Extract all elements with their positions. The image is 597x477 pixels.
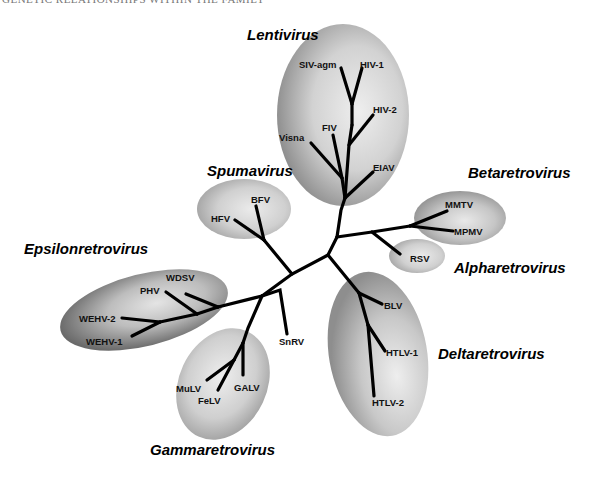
- genus-spumavirus: Spumavirus: [207, 162, 293, 179]
- spumavirus-ellipse: [197, 179, 291, 239]
- leaf-felv: FeLV: [198, 395, 221, 406]
- leaf-siv-agm: SIV-agm: [299, 59, 337, 70]
- genus-deltaretrovirus: Deltaretrovirus: [438, 345, 545, 362]
- leaf-phv: PHV: [140, 285, 160, 296]
- leaf-rsv: RSV: [410, 253, 430, 264]
- leaf-wehv-1: WEHV-1: [86, 336, 123, 347]
- leaf-fiv: FIV: [322, 122, 337, 133]
- phylogenetic-tree: SIV-agm HIV-1 HIV-2 FIV Visna EIAV HFV B…: [0, 0, 597, 477]
- leaf-galv: GALV: [234, 382, 260, 393]
- leaf-htlv-1: HTLV-1: [386, 347, 419, 358]
- leaf-hfv: HFV: [211, 213, 231, 224]
- leaf-hiv-1: HIV-1: [360, 59, 384, 70]
- leaf-mmtv: MMTV: [445, 199, 474, 210]
- leaf-htlv-2: HTLV-2: [372, 397, 404, 408]
- genus-alpharetrovirus: Alpharetrovirus: [453, 259, 566, 276]
- leaf-visna: Visna: [279, 132, 305, 143]
- genus-gammaretrovirus: Gammaretrovirus: [150, 441, 275, 458]
- deltaretrovirus-ellipse: [315, 264, 440, 444]
- leaf-mulv: MuLV: [176, 383, 202, 394]
- leaf-snrv: SnRV: [279, 336, 305, 347]
- genus-epsilonretrovirus: Epsilonretrovirus: [24, 240, 148, 257]
- leaf-wdsv: WDSV: [166, 272, 195, 283]
- leaf-blv: BLV: [384, 300, 403, 311]
- leaf-hiv-2: HIV-2: [373, 104, 397, 115]
- genus-lentivirus: Lentivirus: [247, 26, 319, 43]
- genus-betaretrovirus: Betaretrovirus: [468, 164, 571, 181]
- leaf-eiav: EIAV: [373, 162, 395, 173]
- leaf-wehv-2: WEHV-2: [79, 313, 115, 324]
- leaf-mpmv: MPMV: [454, 226, 483, 237]
- leaf-bfv: BFV: [251, 194, 271, 205]
